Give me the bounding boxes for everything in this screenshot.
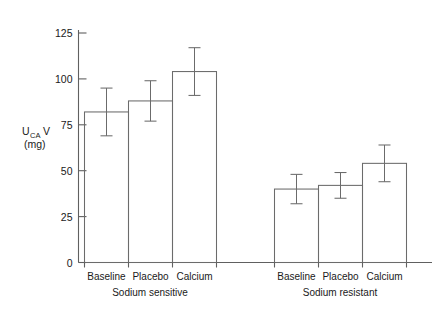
bar [129,101,173,263]
x-category-label: Calcium [366,271,402,282]
x-group-label: Sodium resistant [303,287,378,298]
x-group-label: Sodium sensitive [112,287,188,298]
y-tick-label: 125 [55,27,73,39]
y-tick-label: 100 [55,73,73,85]
x-category-label: Baseline [277,271,316,282]
y-axis-title-main2: V [43,125,50,137]
group-label-layer: Sodium sensitiveSodium resistant [112,287,377,298]
y-axis-title-units: (mg) [24,138,46,150]
bar-chart: 0255075100125 BaselinePlaceboCalciumBase… [0,0,446,313]
y-axis-title-main: U [22,125,30,137]
y-tick-label: 50 [61,165,73,177]
y-tick-group: 0255075100125 [55,27,87,269]
bar [173,72,217,263]
x-category-label: Calcium [176,271,212,282]
x-category-label: Baseline [87,271,126,282]
chart-canvas: 0255075100125 BaselinePlaceboCalciumBase… [0,0,446,313]
y-tick-label: 0 [67,257,73,269]
category-label-layer: BaselinePlaceboCalciumBaselinePlaceboCal… [85,263,407,282]
y-axis-title: U CA V (mg) [22,125,50,150]
bars-layer [85,48,407,263]
x-category-label: Placebo [322,271,359,282]
y-tick-label: 25 [61,211,73,223]
y-tick-label: 75 [61,119,73,131]
x-category-label: Placebo [132,271,169,282]
